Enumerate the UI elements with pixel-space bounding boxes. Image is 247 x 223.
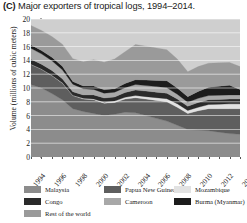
x-tick-mark	[104, 157, 105, 159]
legend-item: Rest of the world	[24, 210, 91, 217]
chart-plot-area	[31, 19, 240, 157]
figure-panel-c: (C) Major exporters of tropical logs, 19…	[0, 0, 247, 223]
legend-swatch	[24, 210, 41, 217]
x-tick-mark	[167, 157, 168, 159]
y-tick-label: 20	[22, 15, 30, 24]
y-tick-label: 4	[26, 125, 30, 134]
legend-label: Cameroon	[125, 198, 152, 205]
panel-letter: (C)	[3, 1, 16, 11]
legend-item: Cameroon	[104, 198, 152, 205]
x-tick-mark	[209, 157, 210, 159]
x-tick-mark	[136, 157, 137, 159]
y-tick-label: 2	[26, 139, 30, 148]
y-tick-label: 6	[26, 111, 30, 120]
legend-item: Burma (Myanmar)	[174, 198, 245, 205]
legend-swatch	[104, 198, 121, 205]
figure-title-text: Major exporters of tropical logs, 1994–2…	[18, 1, 195, 11]
x-tick-mark	[125, 157, 126, 159]
y-tick-label: 12	[22, 70, 30, 79]
legend-label: Rest of the world	[45, 210, 91, 217]
y-axis-ticks: 02468101214161820	[10, 19, 30, 157]
y-tick-label: 14	[22, 56, 30, 65]
x-tick-mark	[115, 157, 116, 159]
x-tick-mark	[52, 157, 53, 159]
legend-label: Papua New Guinea	[125, 186, 176, 193]
legend-swatch	[174, 186, 191, 193]
legend-swatch	[104, 186, 121, 193]
x-axis-ticks: 1994199619982000200220042006200820102012…	[31, 157, 240, 187]
x-tick-mark	[219, 157, 220, 159]
y-tick-label: 16	[22, 42, 30, 51]
legend-label: Mozambique	[195, 186, 230, 193]
x-tick-mark	[146, 157, 147, 159]
x-tick-mark	[188, 157, 189, 159]
legend-label: Malaysia	[45, 186, 69, 193]
legend-label: Burma (Myanmar)	[195, 198, 245, 205]
x-tick-mark	[73, 157, 74, 159]
legend-swatch	[24, 186, 41, 193]
x-tick-mark	[94, 157, 95, 159]
x-tick-mark	[156, 157, 157, 159]
x-tick-mark	[230, 157, 231, 159]
legend-swatch	[24, 198, 41, 205]
legend-item: Malaysia	[24, 186, 69, 193]
x-tick-mark	[83, 157, 84, 159]
chart-legend: MalaysiaPapua New GuineaMozambiqueCongoC…	[24, 186, 247, 222]
x-tick-mark	[41, 157, 42, 159]
legend-item: Papua New Guinea	[104, 186, 176, 193]
x-tick-mark	[177, 157, 178, 159]
stacked-area-svg	[31, 19, 240, 157]
figure-title: (C) Major exporters of tropical logs, 19…	[3, 1, 247, 12]
x-tick-mark	[240, 157, 241, 159]
legend-swatch	[174, 198, 191, 205]
x-tick-mark	[31, 157, 32, 159]
y-tick-label: 10	[22, 84, 30, 93]
legend-item: Congo	[24, 198, 63, 205]
legend-item: Mozambique	[174, 186, 230, 193]
legend-label: Congo	[45, 198, 63, 205]
y-tick-label: 8	[26, 97, 30, 106]
x-tick-mark	[198, 157, 199, 159]
x-tick-mark	[62, 157, 63, 159]
y-tick-label: 18	[22, 28, 30, 37]
y-tick-label: 0	[26, 153, 30, 162]
